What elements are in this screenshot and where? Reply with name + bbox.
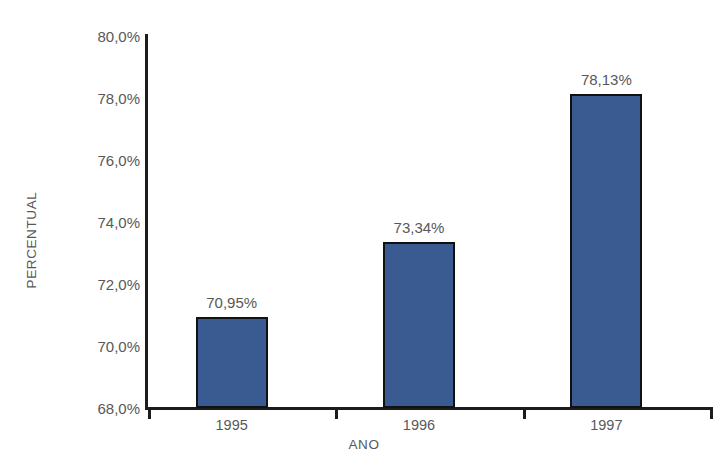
y-tick-label: 70,0% xyxy=(68,339,140,354)
bar-1995 xyxy=(196,317,268,408)
x-axis-tick xyxy=(710,407,713,419)
y-tick-label: 68,0% xyxy=(68,401,140,416)
y-axis-title: PERCENTUAL xyxy=(22,150,42,330)
bar-value-label: 70,95% xyxy=(172,295,292,310)
bar-1997 xyxy=(570,94,642,408)
x-category-label-1995: 1995 xyxy=(172,418,292,433)
x-axis-title: ANO xyxy=(0,437,728,452)
y-axis-line xyxy=(145,34,148,410)
y-axis-tick-labels: 80,0% 78,0% 76,0% 74,0% 72,0% 70,0% 68,0… xyxy=(64,0,140,472)
y-tick-label: 78,0% xyxy=(68,91,140,106)
y-tick-label: 76,0% xyxy=(68,153,140,168)
x-axis-tick xyxy=(335,407,338,419)
y-tick-label: 72,0% xyxy=(68,277,140,292)
x-axis-tick xyxy=(148,407,151,419)
bar-value-label: 78,13% xyxy=(546,72,666,87)
y-tick-label: 74,0% xyxy=(68,215,140,230)
bar-1996 xyxy=(383,242,455,408)
bar-value-label: 73,34% xyxy=(359,220,479,235)
y-tick-label: 80,0% xyxy=(68,29,140,44)
bar-chart-figure: PERCENTUAL 80,0% 78,0% 76,0% 74,0% 72,0%… xyxy=(0,0,728,472)
x-category-label-1997: 1997 xyxy=(546,418,666,433)
x-category-label-1996: 1996 xyxy=(359,418,479,433)
x-axis-tick xyxy=(523,407,526,419)
